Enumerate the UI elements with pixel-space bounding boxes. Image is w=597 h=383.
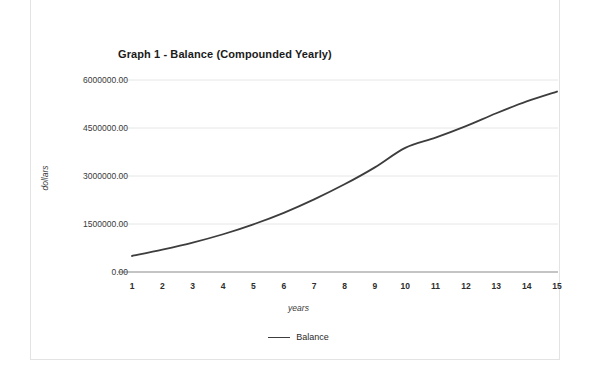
data-series-balance <box>132 92 557 256</box>
x-axis-tick-label: 10 <box>400 281 409 291</box>
legend-line-icon <box>268 337 290 338</box>
y-axis-tick-labels: 0.001500000.003000000.004500000.00600000… <box>56 0 128 383</box>
chart-container: Graph 1 - Balance (Compounded Yearly) 0.… <box>0 0 597 383</box>
y-axis-tick-label: 4500000.00 <box>56 123 128 133</box>
x-axis-tick-label: 11 <box>431 281 440 291</box>
x-axis-tick-label: 12 <box>461 281 470 291</box>
y-axis-tick-label: 3000000.00 <box>56 171 128 181</box>
y-axis-tick-label: 1500000.00 <box>56 219 128 229</box>
x-axis-tick-label: 4 <box>221 281 226 291</box>
x-axis-tick-label: 13 <box>492 281 501 291</box>
x-axis-tick-label: 14 <box>522 281 531 291</box>
x-axis-tick-label: 9 <box>372 281 377 291</box>
x-axis-tick-label: 6 <box>281 281 286 291</box>
x-axis-title: years <box>0 303 597 313</box>
x-axis-tick-label: 5 <box>251 281 256 291</box>
x-axis-tick-label: 8 <box>342 281 347 291</box>
y-axis-tick-label: 6000000.00 <box>56 75 128 85</box>
chart-legend: Balance <box>0 332 597 342</box>
x-axis-tick-label: 7 <box>312 281 317 291</box>
legend-label-balance: Balance <box>296 332 329 342</box>
x-axis-tick-label: 15 <box>552 281 561 291</box>
x-axis-tick-label: 3 <box>190 281 195 291</box>
x-axis-tick-label: 2 <box>160 281 165 291</box>
y-axis-title: dollars <box>40 165 50 190</box>
y-axis-tick-label: 0.00 <box>56 267 128 277</box>
x-axis-tick-label: 1 <box>130 281 135 291</box>
